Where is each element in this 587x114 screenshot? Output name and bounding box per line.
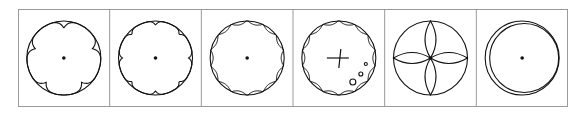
center-dot [520, 56, 524, 60]
panel-6 [476, 9, 559, 107]
center-dot [154, 56, 158, 60]
small-circle [359, 72, 363, 76]
petal [425, 58, 436, 95]
panel-3 [201, 9, 284, 107]
petal [394, 53, 431, 64]
inner-circle [490, 24, 559, 93]
petal [431, 53, 468, 64]
figure-strip [18, 9, 568, 107]
panels-diagram [18, 9, 568, 107]
panel-5 [385, 9, 468, 107]
small-circle [350, 79, 356, 85]
small-circle [364, 63, 367, 66]
panel-1 [27, 21, 101, 95]
panel-4 [293, 9, 376, 107]
center-dot [62, 56, 66, 60]
center-dot [245, 56, 249, 60]
panel-2 [110, 9, 193, 107]
petal [425, 21, 436, 58]
center-dot [429, 56, 433, 60]
